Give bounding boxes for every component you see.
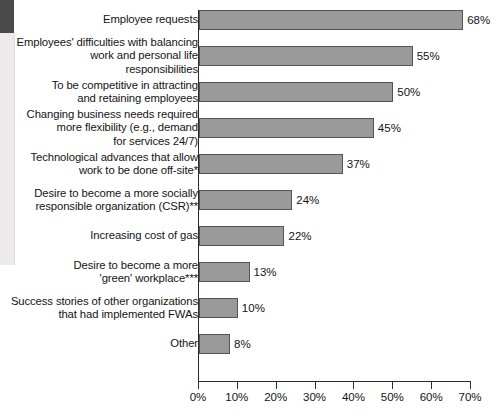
x-axis-tick-label: 0% (176, 391, 220, 403)
bar (199, 298, 238, 318)
x-axis-tick-label: 40% (331, 391, 375, 403)
x-axis-tick-label: 50% (370, 391, 414, 403)
x-axis-tick (198, 382, 199, 389)
chart-row: Employees' difficulties with balancing w… (0, 46, 503, 82)
bar (199, 190, 292, 210)
x-axis-line (198, 381, 471, 382)
x-axis-tick (276, 382, 277, 389)
bar-value-label: 68% (467, 10, 490, 30)
bar-value-label: 13% (254, 262, 277, 282)
chart-row: Other8% (0, 334, 503, 370)
plot-area: Employee requests68%Employees' difficult… (0, 0, 503, 416)
x-axis-tick-label: 10% (215, 391, 259, 403)
category-label: Success stories of other organizations t… (8, 295, 198, 321)
bar-value-label: 22% (288, 226, 311, 246)
category-label: Employees' difficulties with balancing w… (8, 36, 198, 76)
chart-row: Technological advances that allow work t… (0, 154, 503, 190)
x-axis-tick (470, 382, 471, 389)
bar (199, 118, 374, 138)
category-label: To be competitive in attracting and reta… (8, 79, 198, 105)
bar (199, 262, 250, 282)
category-label: Technological advances that allow work t… (8, 151, 198, 177)
chart-row: Increasing cost of gas22% (0, 226, 503, 262)
bar (199, 82, 393, 102)
chart-row: Changing business needs required more fl… (0, 118, 503, 154)
bar-value-label: 8% (234, 334, 251, 354)
x-axis-tick-label: 30% (293, 391, 337, 403)
x-axis-tick (392, 382, 393, 389)
x-axis-tick (237, 382, 238, 389)
x-axis-tick (353, 382, 354, 389)
bar-value-label: 10% (242, 298, 265, 318)
bar (199, 154, 343, 174)
category-label: Desire to become a more socially respons… (8, 187, 198, 213)
bar-value-label: 37% (347, 154, 370, 174)
bar (199, 226, 284, 246)
bar-value-label: 24% (296, 190, 319, 210)
x-axis-tick-label: 70% (448, 391, 492, 403)
bar (199, 46, 413, 66)
bar-chart: Employee requests68%Employees' difficult… (0, 0, 503, 416)
x-axis-tick-label: 60% (409, 391, 453, 403)
x-axis-tick (315, 382, 316, 389)
x-axis-tick (431, 382, 432, 389)
bar-value-label: 45% (378, 118, 401, 138)
chart-row: Desire to become a more 'green' workplac… (0, 262, 503, 298)
category-label: Increasing cost of gas (8, 229, 198, 242)
chart-row: Desire to become a more socially respons… (0, 190, 503, 226)
category-label: Employee requests (8, 13, 198, 26)
bar (199, 10, 463, 30)
bar-value-label: 50% (397, 82, 420, 102)
category-label: Changing business needs required more fl… (8, 108, 198, 148)
x-axis-tick-label: 20% (254, 391, 298, 403)
category-label: Desire to become a more 'green' workplac… (8, 259, 198, 285)
category-label: Other (8, 337, 198, 350)
bar (199, 334, 230, 354)
chart-row: Success stories of other organizations t… (0, 298, 503, 334)
bar-value-label: 55% (417, 46, 440, 66)
